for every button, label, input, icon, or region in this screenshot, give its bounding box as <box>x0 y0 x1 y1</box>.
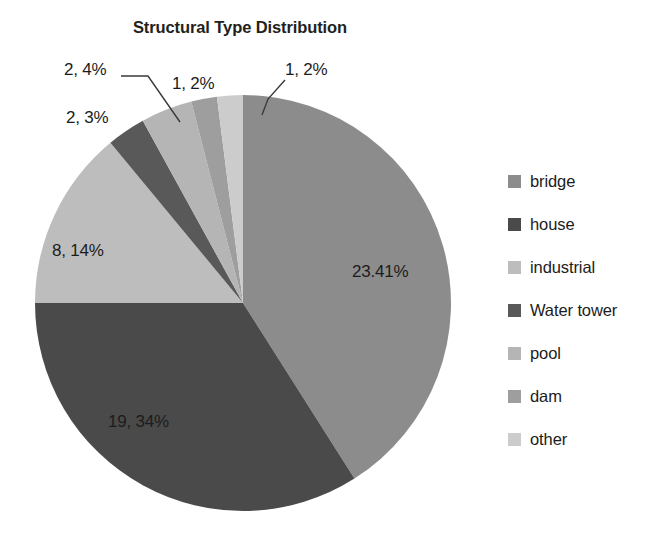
data-label-bridge: 23.41% <box>352 262 408 282</box>
legend-swatch-icon <box>508 304 521 317</box>
legend-item-label: house <box>530 215 574 234</box>
chart-legend: bridgehouseindustrialWater towerpooldamo… <box>508 160 668 461</box>
legend-swatch-icon <box>508 433 521 446</box>
legend-swatch-icon <box>508 390 521 403</box>
legend-item-dam[interactable]: dam <box>508 375 668 418</box>
legend-item-label: industrial <box>530 258 595 277</box>
legend-swatch-icon <box>508 218 521 231</box>
data-label-water-tower: 2, 3% <box>66 108 108 128</box>
legend-item-pool[interactable]: pool <box>508 332 668 375</box>
legend-item-label: Water tower <box>530 301 617 320</box>
legend-item-house[interactable]: house <box>508 203 668 246</box>
legend-item-label: bridge <box>530 172 575 191</box>
data-label-house: 19, 34% <box>108 412 169 432</box>
legend-item-label: dam <box>530 387 562 406</box>
legend-swatch-icon <box>508 261 521 274</box>
data-label-pool: 2, 4% <box>64 60 106 80</box>
legend-item-industrial[interactable]: industrial <box>508 246 668 289</box>
data-label-other: 1, 2% <box>285 60 327 80</box>
legend-swatch-icon <box>508 175 521 188</box>
legend-item-other[interactable]: other <box>508 418 668 461</box>
pie-chart: Structural Type Distribution 23.41% 19, … <box>0 0 669 546</box>
legend-item-label: other <box>530 430 567 449</box>
legend-item-water-tower[interactable]: Water tower <box>508 289 668 332</box>
legend-item-label: pool <box>530 344 561 363</box>
legend-item-bridge[interactable]: bridge <box>508 160 668 203</box>
pie-slices <box>35 95 451 511</box>
data-label-dam: 1, 2% <box>172 74 214 94</box>
data-label-industrial: 8, 14% <box>52 241 104 261</box>
legend-swatch-icon <box>508 347 521 360</box>
